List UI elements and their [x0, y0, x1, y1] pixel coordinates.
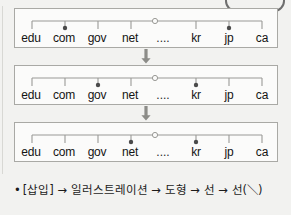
- tld-label-net: net: [114, 85, 147, 106]
- tld-label-ca: ca: [246, 142, 279, 163]
- caption-text: [삽입] → 일러스트레이션 → 도형 → 선 → 선(＼): [23, 183, 263, 197]
- dns-tree-step-1: edu com gov net .... kr jp ca: [14, 8, 278, 48]
- tld-label-jp: jp: [213, 142, 246, 163]
- tld-label-ellipsis: ....: [147, 28, 180, 49]
- tld-label-net: net: [114, 142, 147, 163]
- down-arrow-icon-2: [140, 106, 152, 121]
- down-arrow-icon-1: [140, 49, 152, 64]
- tld-label-gov: gov: [81, 85, 114, 106]
- dns-hierarchy-figure: edu com gov net .... kr jp ca: [0, 8, 291, 162]
- tld-label-row-3: edu com gov net .... kr jp ca: [15, 142, 279, 163]
- tld-label-row-1: edu com gov net .... kr jp ca: [15, 28, 279, 49]
- tld-label-row-2: edu com gov net .... kr jp ca: [15, 85, 279, 106]
- tld-label-kr: kr: [180, 85, 213, 106]
- tld-label-ca: ca: [246, 85, 279, 106]
- tld-label-kr: kr: [180, 142, 213, 163]
- tld-label-ellipsis: ....: [147, 142, 180, 163]
- tld-label-jp: jp: [213, 28, 246, 49]
- flow-arrow-row-2: [0, 105, 291, 122]
- caption-bullet: •: [14, 183, 21, 198]
- tld-label-edu: edu: [15, 85, 48, 106]
- dns-tree-step-3: edu com gov net .... kr jp ca: [14, 122, 278, 162]
- tld-label-gov: gov: [81, 28, 114, 49]
- figure-caption: •[삽입] → 일러스트레이션 → 도형 → 선 → 선(＼): [14, 183, 284, 198]
- tld-label-com: com: [48, 142, 81, 163]
- tld-label-edu: edu: [15, 142, 48, 163]
- tld-label-ellipsis: ....: [147, 85, 180, 106]
- root-node-circle: [152, 75, 157, 80]
- tld-label-ca: ca: [246, 28, 279, 49]
- root-node-circle: [152, 132, 157, 137]
- tld-label-com: com: [48, 28, 81, 49]
- tld-label-edu: edu: [15, 28, 48, 49]
- flow-arrow-row-1: [0, 48, 291, 65]
- root-node-circle: [152, 18, 157, 23]
- tld-label-kr: kr: [180, 28, 213, 49]
- dns-tree-step-2: edu com gov net .... kr jp ca: [14, 65, 278, 105]
- tld-label-com: com: [48, 85, 81, 106]
- tld-label-gov: gov: [81, 142, 114, 163]
- tld-label-net: net: [114, 28, 147, 49]
- tld-label-jp: jp: [213, 85, 246, 106]
